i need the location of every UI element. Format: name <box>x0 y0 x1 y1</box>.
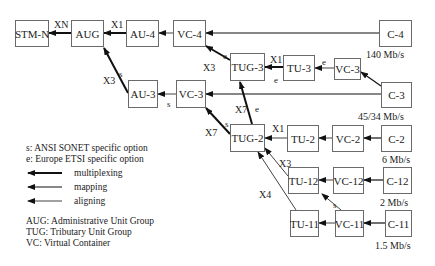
x1-aug-label: X1 <box>111 20 123 30</box>
tug3-box: TUG-3 <box>230 53 265 81</box>
tu2-box: TU-2 <box>287 125 319 152</box>
c11-rate-label: 1.5 Mb/s <box>375 241 411 251</box>
s-vc11-label: s <box>333 200 337 210</box>
legend-aug-def: AUG: Administrative Unit Group <box>26 216 154 227</box>
vc3-left-box: VC-3 <box>176 80 206 108</box>
tu11-box: TU-11 <box>290 210 319 237</box>
x4-tu11-label: X4 <box>259 190 271 200</box>
c4-box: C-4 <box>379 20 412 47</box>
s-tug2-label: s <box>225 119 229 129</box>
c2-rate-label: 6 Mb/s <box>382 155 410 165</box>
e-tug2-label: e <box>255 104 259 114</box>
c3-box: C-3 <box>381 82 412 108</box>
legend-e-option: e: Europe ETSI specific option <box>26 154 144 165</box>
au4-box: AU-4 <box>126 20 159 47</box>
xn-label: XN <box>54 20 68 30</box>
s-vc3-label: s <box>167 99 171 109</box>
legend-vc-def: VC: Virtual Container <box>26 238 110 249</box>
x1-tug2-label: X1 <box>272 124 284 134</box>
s-au3-label: s <box>119 69 123 79</box>
stm-n-box: STM-N <box>15 20 49 47</box>
vc2-box: VC-2 <box>332 125 364 152</box>
c3-rate-label: 45/34 Mb/s <box>358 112 404 122</box>
vc4-box: VC-4 <box>173 20 206 47</box>
c11-box: C-11 <box>385 210 412 237</box>
x3-tug3-label: X3 <box>203 63 215 73</box>
legend-tug-def: TUG: Tributary Unit Group <box>26 227 132 238</box>
e-tug3-vc4-label: e <box>223 51 227 61</box>
tug2-box: TUG-2 <box>230 124 265 152</box>
legend-mapping: mapping <box>74 182 107 193</box>
tu3-box: TU-3 <box>283 55 315 81</box>
vc12-box: VC-12 <box>333 167 364 194</box>
c2-box: C-2 <box>381 125 412 152</box>
x1-tug3-label: X1 <box>270 55 282 65</box>
c4-rate-label: 140 Mb/s <box>366 50 404 60</box>
au3-box: AU-3 <box>128 80 158 108</box>
x7-vc3-label: X7 <box>205 128 217 138</box>
aug-box: AUG <box>71 20 104 47</box>
x7-tug3-label: X7 <box>235 105 247 115</box>
tu12-box: TU-12 <box>288 167 319 194</box>
c12-box: C-12 <box>383 167 412 194</box>
e-tug3-tu3-label: e <box>274 75 278 85</box>
x3-au3-label: X3 <box>103 76 115 86</box>
vc11-box: VC-11 <box>335 210 364 237</box>
legend-s-option: s: ANSI SONET specific option <box>26 143 148 154</box>
legend-aligning: aligning <box>74 196 105 207</box>
e-tu3-label: e <box>322 57 326 67</box>
x3-tu12-label: X3 <box>279 159 291 169</box>
c12-rate-label: 2 Mb/s <box>380 198 408 208</box>
vc3-right-box: VC-3 <box>334 58 361 80</box>
legend-multiplexing: multiplexing <box>74 168 123 179</box>
